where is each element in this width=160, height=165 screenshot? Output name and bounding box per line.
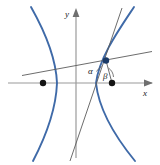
angle-beta-label: β <box>102 71 108 81</box>
angle-alpha-label: α <box>88 66 93 76</box>
x-axis-label: x <box>142 88 147 98</box>
right-focus-point <box>109 80 115 86</box>
y-axis-label: y <box>64 9 69 19</box>
tangency-point <box>103 57 109 63</box>
left-focus-point <box>40 80 46 86</box>
figure-canvas: x y α β <box>0 0 160 165</box>
hyperbola-figure: x y α β <box>0 0 160 165</box>
